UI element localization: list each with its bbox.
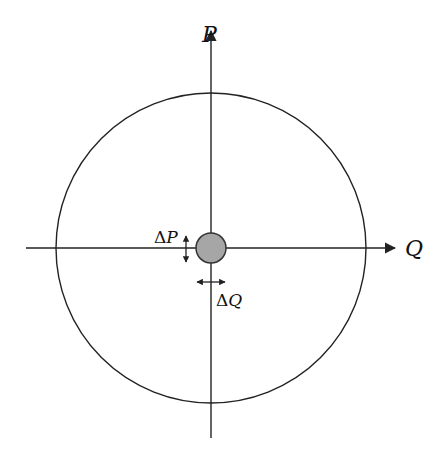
delta-p-var: P xyxy=(165,227,178,247)
delta-q-label: ΔQ xyxy=(216,290,242,310)
delta-p-symbol: Δ xyxy=(154,227,166,247)
operating-point-marker xyxy=(196,233,226,263)
delta-p-label: ΔP xyxy=(154,227,178,247)
diagram-svg: P Q ΔP ΔQ xyxy=(0,0,448,463)
q-axis-label: Q xyxy=(405,236,423,261)
pq-diagram: P Q ΔP ΔQ xyxy=(0,0,448,463)
delta-q-symbol: Δ xyxy=(216,290,228,310)
p-axis-label: P xyxy=(201,22,218,47)
delta-q-var: Q xyxy=(228,290,242,310)
